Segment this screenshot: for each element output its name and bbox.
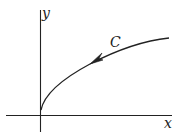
curve-label: C <box>110 35 121 49</box>
curve-c <box>41 38 169 110</box>
diagram-svg <box>0 0 189 139</box>
y-axis-label: y <box>42 6 50 20</box>
diagram-canvas: y x C <box>0 0 189 139</box>
x-axis-label: x <box>164 116 172 130</box>
